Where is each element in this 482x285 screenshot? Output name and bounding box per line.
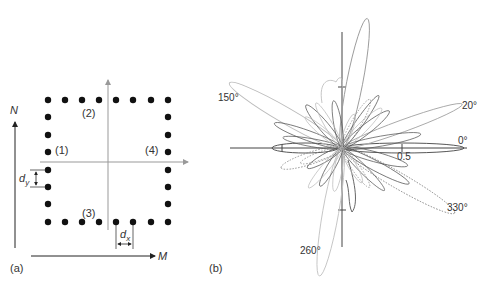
sub-array-label-2: (2)	[82, 107, 95, 119]
panel-a-label: (a)	[10, 262, 23, 274]
beam-80deg	[334, 17, 375, 150]
beam-label-260: 260°	[300, 245, 321, 256]
dx-label: dx	[120, 228, 131, 243]
sub-array-label-1: (1)	[55, 144, 68, 156]
m-axis-label: M	[158, 250, 168, 262]
n-axis-label: N	[10, 104, 18, 116]
dx-spacing-marker: dx	[116, 225, 133, 249]
beam-label-0: 0°	[458, 135, 468, 146]
dy-spacing-marker: dy	[19, 170, 46, 187]
figure-canvas: N M (2) (1) (4) (3)	[0, 0, 482, 285]
beam-label-330: 330°	[447, 202, 468, 213]
panel-b-label: (b)	[209, 262, 222, 274]
beam-patterns	[225, 17, 464, 278]
panel-b: 0.5	[209, 17, 477, 278]
sub-array-label-4: (4)	[145, 144, 158, 156]
sub-array-label-3: (3)	[82, 207, 95, 219]
beam-label-20: 20°	[462, 100, 477, 111]
beam-label-150: 150°	[218, 92, 239, 103]
beam-light-top-lobe	[321, 78, 342, 103]
panel-a: N M (2) (1) (4) (3)	[10, 80, 188, 274]
dy-label: dy	[19, 172, 30, 187]
